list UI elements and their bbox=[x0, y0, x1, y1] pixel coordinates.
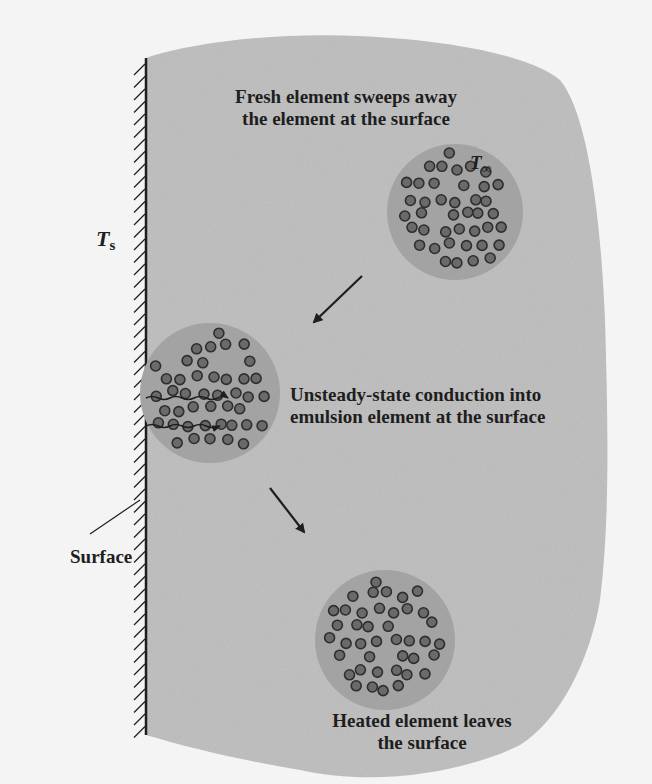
particle bbox=[402, 670, 412, 680]
particle bbox=[231, 388, 241, 398]
particle bbox=[409, 653, 419, 663]
surface-leader-line bbox=[90, 500, 140, 534]
particle bbox=[441, 227, 451, 237]
particle bbox=[198, 358, 208, 368]
particle bbox=[473, 208, 483, 218]
particle bbox=[414, 178, 424, 188]
particle bbox=[243, 392, 253, 402]
particle bbox=[216, 419, 226, 429]
particle bbox=[368, 587, 378, 597]
particle bbox=[419, 608, 429, 618]
particle bbox=[168, 386, 178, 396]
particle bbox=[332, 620, 342, 630]
unsteady-conduction-caption: Unsteady-state conduction into emulsion … bbox=[290, 384, 620, 428]
heated-caption-line-2: the surface bbox=[312, 732, 532, 754]
particle bbox=[405, 196, 415, 206]
particle bbox=[188, 402, 198, 412]
particle bbox=[452, 165, 462, 175]
particle bbox=[365, 652, 375, 662]
particle bbox=[235, 404, 245, 414]
particle bbox=[459, 181, 469, 191]
particle bbox=[470, 226, 480, 236]
particle bbox=[161, 374, 171, 384]
particle bbox=[419, 225, 429, 235]
particle bbox=[223, 401, 233, 411]
particle bbox=[391, 635, 401, 645]
particle bbox=[357, 608, 367, 618]
particle bbox=[355, 665, 365, 675]
particle bbox=[404, 636, 414, 646]
particle bbox=[488, 209, 498, 219]
heated-element-caption: Heated element leaves the surface bbox=[312, 710, 532, 754]
particle bbox=[420, 197, 430, 207]
particle bbox=[182, 356, 192, 366]
particle bbox=[417, 208, 427, 218]
particle bbox=[371, 577, 381, 587]
heated-caption-line-1: Heated element leaves bbox=[312, 710, 532, 732]
particle bbox=[180, 389, 190, 399]
particle bbox=[239, 439, 249, 449]
particle bbox=[375, 603, 385, 613]
particle bbox=[335, 650, 345, 660]
particle bbox=[425, 161, 435, 171]
element-at-surface bbox=[140, 323, 280, 463]
particle bbox=[356, 639, 366, 649]
particle bbox=[363, 622, 373, 632]
bulk-temperature-label: T∞ bbox=[470, 152, 492, 180]
particle bbox=[345, 670, 355, 680]
particle bbox=[223, 435, 233, 445]
unsteady-caption-line-1: Unsteady-state conduction into bbox=[290, 384, 620, 406]
particle bbox=[381, 587, 391, 597]
particle bbox=[450, 198, 460, 208]
bulk-temperature-subscript: ∞ bbox=[482, 161, 492, 176]
bulk-temperature-symbol: T bbox=[470, 152, 482, 173]
particle bbox=[372, 636, 382, 646]
particle bbox=[175, 375, 185, 385]
particle bbox=[259, 391, 269, 401]
fresh-element-caption: Fresh element sweeps away the element at… bbox=[196, 86, 496, 130]
particle bbox=[348, 591, 358, 601]
particle bbox=[398, 592, 408, 602]
particle bbox=[481, 196, 491, 206]
heated-element bbox=[315, 570, 455, 710]
particle bbox=[351, 681, 361, 691]
particle bbox=[402, 177, 412, 187]
particle bbox=[192, 344, 202, 354]
particle bbox=[441, 257, 451, 267]
particle bbox=[329, 606, 339, 616]
wall-temperature-subscript: s bbox=[109, 237, 115, 253]
particle bbox=[174, 407, 184, 417]
particle bbox=[407, 222, 417, 232]
particle bbox=[477, 240, 487, 250]
unsteady-caption-line-2: emulsion element at the surface bbox=[290, 406, 620, 428]
particle bbox=[444, 148, 454, 158]
particle bbox=[221, 374, 231, 384]
particle bbox=[192, 371, 202, 381]
particle bbox=[462, 241, 472, 251]
particle bbox=[160, 406, 170, 416]
particle bbox=[496, 222, 506, 232]
particle bbox=[427, 617, 437, 627]
particle bbox=[485, 253, 495, 263]
particle bbox=[151, 361, 161, 371]
particle bbox=[242, 420, 252, 430]
particle bbox=[257, 421, 267, 431]
particle bbox=[373, 667, 383, 677]
particle bbox=[429, 178, 439, 188]
particle bbox=[444, 238, 454, 248]
particle bbox=[221, 339, 231, 349]
particle bbox=[413, 586, 423, 596]
particle bbox=[420, 636, 430, 646]
particle bbox=[172, 438, 182, 448]
particle bbox=[239, 339, 249, 349]
particle bbox=[206, 342, 216, 352]
particle bbox=[400, 211, 410, 221]
particle bbox=[325, 633, 335, 643]
particle bbox=[454, 224, 464, 234]
particle bbox=[452, 258, 462, 268]
fresh-element bbox=[387, 144, 523, 280]
particle bbox=[227, 420, 237, 430]
particle bbox=[402, 604, 412, 614]
particle bbox=[437, 161, 447, 171]
particle bbox=[479, 182, 489, 192]
